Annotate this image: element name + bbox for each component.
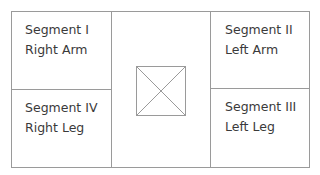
segment-iv-part: Right Leg xyxy=(25,118,97,138)
segment-i-part: Right Arm xyxy=(25,40,89,60)
segment-iii-title: Segment III xyxy=(225,97,296,117)
segment-i-label: Segment I Right Arm xyxy=(25,20,89,60)
segment-i-title: Segment I xyxy=(25,20,89,40)
segment-iv-title: Segment IV xyxy=(25,98,97,118)
segment-iii-label: Segment III Left Leg xyxy=(225,97,296,137)
segment-iii-part: Left Leg xyxy=(225,117,296,137)
segment-ii-cell: Segment II Left Arm xyxy=(210,12,310,89)
segment-i-cell: Segment I Right Arm xyxy=(12,12,112,90)
segment-iv-label: Segment IV Right Leg xyxy=(25,98,97,138)
segment-iv-cell: Segment IV Right Leg xyxy=(12,89,112,168)
segment-ii-label: Segment II Left Arm xyxy=(225,20,293,60)
segment-ii-title: Segment II xyxy=(225,20,293,40)
segment-ii-part: Left Arm xyxy=(225,40,293,60)
segment-iii-cell: Segment III Left Leg xyxy=(210,88,310,168)
crossed-box-icon xyxy=(136,66,186,116)
segment-diagram: Segment I Right Arm Segment II Left Arm … xyxy=(11,11,310,168)
